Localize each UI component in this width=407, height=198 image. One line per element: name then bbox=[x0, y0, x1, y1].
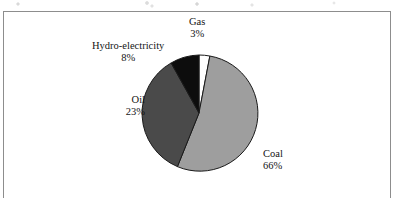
pie-label-coal-value: 66% bbox=[263, 160, 283, 172]
pie-label-oil-value: 23% bbox=[93, 106, 145, 118]
pie-label-hydro-electricity-value: 8% bbox=[92, 52, 164, 64]
pie-chart: Gas 3% Hydro-electricity 8% Oil 23% Coal… bbox=[0, 0, 407, 198]
pie-label-gas: Gas 3% bbox=[189, 16, 205, 39]
pie-label-coal: Coal 66% bbox=[263, 148, 283, 171]
pie-chart-screenshot: Gas 3% Hydro-electricity 8% Oil 23% Coal… bbox=[0, 0, 407, 198]
pie-label-gas-name: Gas bbox=[189, 16, 205, 28]
pie-label-hydro-electricity-name: Hydro-electricity bbox=[92, 40, 164, 52]
pie-label-gas-value: 3% bbox=[189, 28, 205, 40]
pie-label-hydro-electricity: Hydro-electricity 8% bbox=[92, 40, 164, 63]
pie-label-coal-name: Coal bbox=[263, 148, 283, 160]
pie-label-oil-name: Oil bbox=[93, 94, 145, 106]
pie-label-oil: Oil 23% bbox=[93, 94, 145, 117]
